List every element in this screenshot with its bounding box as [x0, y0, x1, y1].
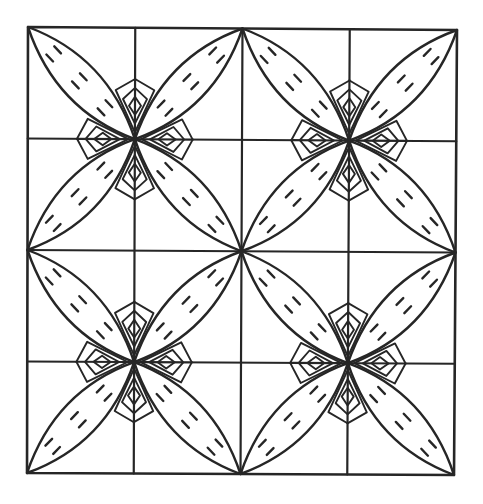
petal	[349, 30, 457, 141]
petal	[28, 139, 135, 250]
petal	[135, 139, 242, 251]
petal	[28, 250, 135, 362]
petal	[348, 363, 454, 475]
petal	[241, 363, 348, 474]
quilt-pattern-artwork	[0, 0, 483, 504]
petal	[28, 27, 135, 139]
petal	[134, 251, 241, 362]
petal	[135, 29, 243, 140]
quilt-pattern-canvas	[0, 0, 483, 504]
petal	[242, 251, 348, 363]
petal	[243, 29, 350, 141]
petal	[27, 362, 134, 473]
petal	[349, 141, 455, 253]
petal	[242, 141, 350, 252]
petal	[348, 253, 456, 364]
petal	[134, 362, 240, 474]
